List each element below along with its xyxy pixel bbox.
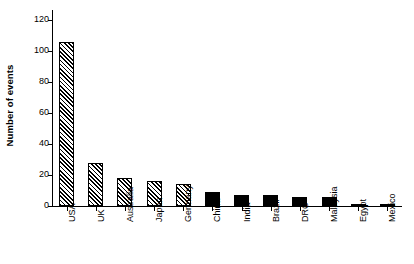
x-tick-label-text: Malaysia bbox=[329, 186, 339, 222]
x-tick-label-text: USA bbox=[67, 203, 77, 222]
x-tick-label-text: Japan bbox=[154, 197, 164, 222]
x-tick-label-text: India bbox=[242, 202, 252, 222]
x-axis-spine bbox=[52, 206, 402, 207]
x-tick-label-text: DRC bbox=[300, 203, 310, 223]
y-tick-label: 120 bbox=[34, 14, 49, 24]
bar-uk bbox=[88, 163, 103, 206]
x-tick-label-text: Germany bbox=[183, 185, 193, 222]
x-tick-label-text: UK bbox=[96, 209, 106, 222]
x-tick-label-text: Egypt bbox=[358, 199, 368, 222]
bar-usa bbox=[59, 42, 74, 206]
x-tick-label-text: Australia bbox=[125, 187, 135, 222]
x-tick-label-text: Brazil bbox=[271, 199, 281, 222]
y-tick-label: 100 bbox=[34, 45, 49, 55]
x-tick-label-text: China bbox=[212, 198, 222, 222]
y-tick-label: 40 bbox=[39, 138, 49, 148]
y-tick-label: 0 bbox=[44, 200, 49, 210]
y-tick-label: 60 bbox=[39, 107, 49, 117]
y-axis-title-text: Number of events bbox=[5, 64, 16, 146]
y-tick-label: 80 bbox=[39, 76, 49, 86]
bar-chart-figure: Number of events 020406080100120 USAUKAu… bbox=[0, 0, 414, 264]
plot-area: 020406080100120 USAUKAustraliaJapanGerma… bbox=[52, 10, 402, 207]
y-axis-spine bbox=[52, 10, 53, 207]
y-tick-label: 20 bbox=[39, 169, 49, 179]
y-axis-title: Number of events bbox=[0, 0, 20, 210]
x-tick-label-text: Mexico bbox=[387, 193, 397, 222]
